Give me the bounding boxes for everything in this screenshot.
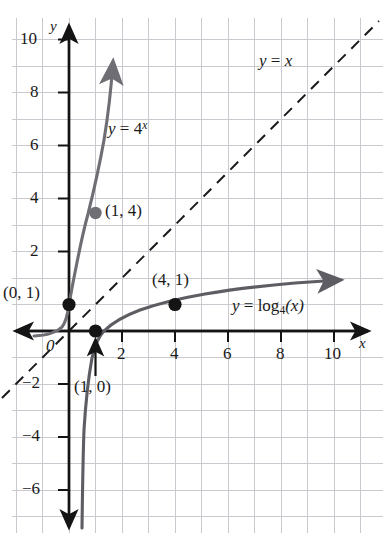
x-tick-10: 10: [324, 344, 341, 364]
y-tick-8: 8: [30, 82, 39, 102]
y-tick-neg6: −6: [22, 479, 40, 499]
label-point-4-1: (4, 1): [152, 270, 189, 290]
exp-eq: =: [116, 119, 134, 138]
label-exponential-function: y = 4x: [108, 119, 147, 139]
y-axis-name: y: [50, 18, 57, 35]
y-tick-neg2: −2: [22, 373, 40, 393]
label-logarithmic-function: y = log4(x): [232, 296, 304, 317]
id-eq: =: [267, 51, 285, 70]
identity-line-y-equals-x: [2, 21, 379, 398]
x-tick-6: 6: [223, 344, 232, 364]
label-point-0-1: (0, 1): [3, 283, 40, 303]
point-4-1: [168, 298, 181, 311]
graph-figure: y x 0 10 8 6 4 2 −2 −4 −6 2 4 6 8 10 y =…: [0, 0, 383, 533]
label-point-1-4: (1, 4): [105, 201, 142, 221]
x-tick-4: 4: [170, 344, 179, 364]
origin-label: 0: [46, 336, 55, 356]
curve-logarithmic: [82, 280, 340, 528]
y-tick-4: 4: [30, 188, 39, 208]
label-point-1-0: (1, 0): [74, 377, 111, 397]
exp-exponent: x: [142, 119, 147, 132]
grid-lines: [12, 18, 383, 533]
y-tick-10: 10: [20, 29, 37, 49]
x-tick-8: 8: [276, 344, 285, 364]
y-tick-2: 2: [30, 241, 39, 261]
id-lhs: y: [259, 51, 267, 70]
y-tick-6: 6: [30, 135, 39, 155]
x-tick-2: 2: [117, 344, 126, 364]
label-identity-function: y = x: [259, 51, 292, 71]
exp-base: 4: [134, 119, 143, 138]
y-axis-ticks: [58, 40, 69, 491]
graph-canvas: [0, 0, 383, 533]
x-axis-ticks: [122, 331, 334, 342]
log-fn: log: [258, 296, 280, 315]
log-eq: =: [240, 296, 258, 315]
log-arg: (x): [285, 296, 304, 315]
point-1-0: [89, 324, 102, 337]
y-tick-neg4: −4: [22, 426, 40, 446]
log-lhs: y: [232, 296, 240, 315]
point-0-1: [62, 298, 75, 311]
id-rhs: x: [285, 51, 293, 70]
point-1-4: [89, 207, 101, 219]
exp-lhs: y: [108, 119, 116, 138]
x-axis-name: x: [359, 335, 366, 352]
